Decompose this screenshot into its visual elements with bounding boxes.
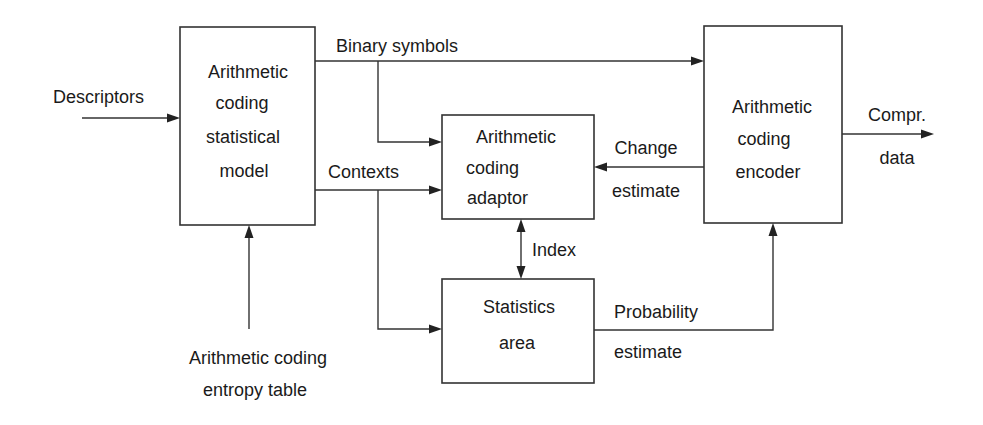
arrowhead-icon: [517, 219, 526, 232]
block-label: adaptor: [467, 188, 528, 208]
arrowhead-icon: [921, 130, 934, 139]
edge-label: Probability: [614, 302, 698, 322]
block-adaptor: Arithmetic coding adaptor: [442, 115, 594, 219]
block-label: area: [499, 333, 536, 353]
block-label: statistical: [206, 127, 280, 147]
block-label: coding: [737, 129, 790, 149]
arrowhead-icon: [429, 186, 442, 195]
arrowhead-icon: [429, 138, 442, 147]
block-label: Arithmetic: [208, 62, 288, 82]
arrowhead-icon: [691, 57, 704, 66]
edge-label: Index: [532, 240, 576, 260]
block-encoder: Arithmetic coding encoder: [704, 26, 842, 223]
block-label: Arithmetic: [476, 127, 556, 147]
edge-label: data: [879, 148, 915, 168]
block-label: coding: [466, 158, 519, 178]
edge-index: Index: [517, 219, 577, 279]
arrowhead-icon: [769, 223, 778, 236]
edge-label: Contexts: [328, 162, 399, 182]
edge-label: entropy table: [203, 380, 307, 400]
edge-label: Compr.: [868, 105, 926, 125]
block-label: Statistics: [483, 297, 555, 317]
edge-label: estimate: [614, 342, 682, 362]
edge-probability-estimate: Probability estimate: [594, 223, 778, 362]
edge-compressed-data: Compr. data: [842, 105, 934, 168]
edge-change-estimate: Change estimate: [594, 138, 704, 201]
arrowhead-icon: [594, 163, 607, 172]
arrowhead-icon: [245, 225, 254, 238]
edge-label: estimate: [612, 181, 680, 201]
edge-contexts: Contexts: [315, 162, 442, 334]
block-label: coding: [215, 93, 268, 113]
edge-label: Change: [614, 138, 677, 158]
arrowhead-icon: [429, 325, 442, 334]
edge-label: Descriptors: [53, 87, 144, 107]
edge-label: Binary symbols: [336, 36, 458, 56]
arrowhead-icon: [167, 114, 180, 123]
block-label: model: [219, 161, 268, 181]
block-label: Arithmetic: [732, 97, 812, 117]
edge-descriptors: Descriptors: [53, 87, 180, 123]
block-statistical-model: Arithmetic coding statistical model: [180, 27, 315, 225]
diagram-canvas: Arithmetic coding statistical model Arit…: [0, 0, 983, 425]
block-label: encoder: [735, 162, 800, 182]
edge-label: Arithmetic coding: [189, 348, 327, 368]
arrowhead-icon: [517, 266, 526, 279]
edge-entropy-table: Arithmetic coding entropy table: [189, 225, 327, 400]
block-statistics-area: Statistics area: [442, 279, 594, 383]
